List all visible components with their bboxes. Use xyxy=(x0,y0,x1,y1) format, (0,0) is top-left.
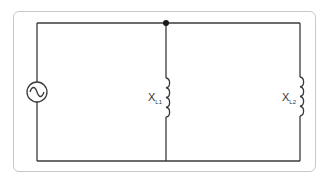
inductor-l1-icon xyxy=(166,78,170,117)
label-xl2: XL2 xyxy=(282,92,296,105)
junction-dot-icon xyxy=(163,20,169,26)
ac-source-icon xyxy=(27,82,47,102)
inductor-l2-icon xyxy=(300,77,304,116)
label-xl2-sub: L2 xyxy=(289,99,296,105)
label-xl1: XL1 xyxy=(148,92,162,105)
label-xl1-sub: L1 xyxy=(155,99,162,105)
circuit-diagram xyxy=(0,0,327,180)
